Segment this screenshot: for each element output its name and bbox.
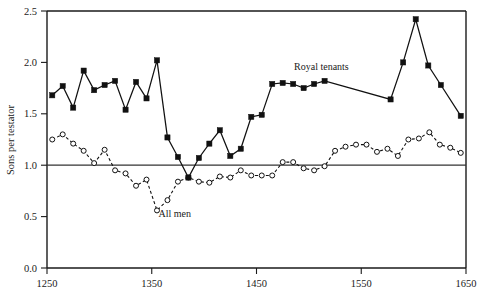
all-men-data-point (427, 130, 432, 135)
x-tick-label-1: 1350 (141, 278, 162, 289)
all-men-data-point (81, 148, 86, 153)
y-tick-label-3: 1.5 (24, 108, 37, 119)
all-men-data-point (458, 150, 463, 155)
royal-data-point (123, 107, 128, 112)
royal-data-point (291, 81, 296, 86)
all-men-data-point (395, 153, 400, 158)
all-men-data-point (60, 132, 65, 137)
royal-data-point (238, 146, 243, 151)
all-men-data-point (354, 142, 359, 147)
royal-data-point (228, 153, 233, 158)
x-tick-label-4: 1650 (456, 278, 477, 289)
all-men-data-point (207, 180, 212, 185)
royal-data-point (133, 79, 138, 84)
all-men-label: All men (159, 208, 192, 219)
royal-data-point (249, 114, 254, 119)
all-men-data-point (406, 137, 411, 142)
royal-data-point (112, 78, 117, 83)
all-men-data-point (364, 142, 369, 147)
royal-data-point (426, 63, 431, 68)
x-tick-label-0: 1250 (37, 278, 58, 289)
all-men-data-point (291, 160, 296, 165)
royal-data-point (413, 17, 418, 22)
royal-data-point (102, 82, 107, 87)
royal-data-point (175, 154, 180, 159)
all-men-data-point (385, 146, 390, 151)
royal-data-point (259, 112, 264, 117)
royal-data-point (71, 105, 76, 110)
royal-data-point (154, 58, 159, 63)
royal-data-point (312, 81, 317, 86)
royal-data-point (165, 135, 170, 140)
royal-data-point (388, 97, 393, 102)
royal-data-point (60, 83, 65, 88)
all-men-data-point (259, 173, 264, 178)
x-tick-label-2: 1450 (246, 278, 267, 289)
all-men-data-point (238, 168, 243, 173)
all-men-data-point (249, 173, 254, 178)
all-men-data-point (217, 174, 222, 179)
all-men-data-point (175, 179, 180, 184)
all-men-data-point (270, 173, 275, 178)
all-men-data-point (196, 179, 201, 184)
all-men-data-point (50, 137, 55, 142)
all-men-data-point (228, 175, 233, 180)
royal-data-point (144, 96, 149, 101)
all-men-data-point (102, 147, 107, 152)
all-men-data-point (312, 168, 317, 173)
chart-svg: 0.0 0.5 1.0 1.5 2.0 2.5 1250 1350 1450 1… (0, 0, 485, 305)
royal-data-point (301, 86, 306, 91)
y-tick-label-2: 1.0 (24, 160, 37, 171)
all-men-data-point (322, 164, 327, 169)
figure-background (0, 0, 485, 305)
y-axis-title: Sons per testator (5, 105, 16, 175)
royal-tenants-label: Royal tenants (294, 61, 349, 72)
all-men-data-point (437, 142, 442, 147)
royal-data-point (207, 141, 212, 146)
all-men-data-point (343, 144, 348, 149)
y-tick-label-1: 0.5 (24, 211, 37, 222)
all-men-data-point (92, 161, 97, 166)
x-tick-label-3: 1550 (351, 278, 372, 289)
chart-figure: 0.0 0.5 1.0 1.5 2.0 2.5 1250 1350 1450 1… (0, 0, 485, 305)
royal-data-point (217, 128, 222, 133)
all-men-data-point (416, 136, 421, 141)
royal-data-point (280, 80, 285, 85)
all-men-data-point (165, 198, 170, 203)
all-men-data-point (333, 148, 338, 153)
royal-data-point (438, 82, 443, 87)
all-men-data-point (144, 177, 149, 182)
royal-data-point (270, 81, 275, 86)
all-men-data-point (113, 168, 118, 173)
y-tick-label-5: 2.5 (24, 6, 37, 17)
royal-data-point (458, 113, 463, 118)
royal-data-point (322, 78, 327, 83)
all-men-data-point (374, 149, 379, 154)
all-men-data-point (280, 160, 285, 165)
royal-data-point (196, 155, 201, 160)
royal-data-point (401, 60, 406, 65)
y-tick-label-4: 2.0 (24, 57, 37, 68)
all-men-data-point (448, 145, 453, 150)
all-men-data-point (71, 141, 76, 146)
royal-data-point (186, 175, 191, 180)
royal-data-point (92, 88, 97, 93)
all-men-data-point (134, 183, 139, 188)
all-men-data-point (123, 171, 128, 176)
royal-data-point (50, 93, 55, 98)
all-men-data-point (301, 166, 306, 171)
y-tick-label-0: 0.0 (24, 263, 37, 274)
royal-data-point (81, 68, 86, 73)
